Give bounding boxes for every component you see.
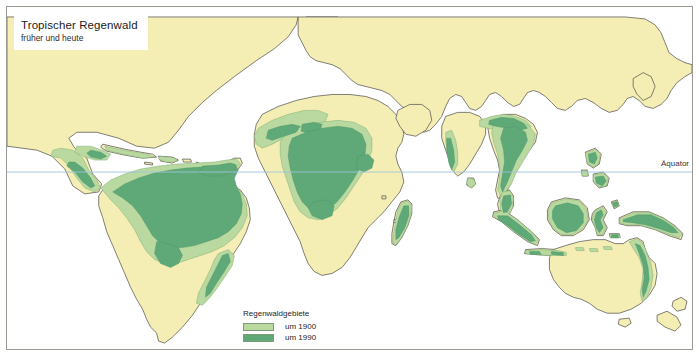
page-title: Tropischer Regenwald [21,19,138,32]
legend-swatch-1990 [243,334,274,342]
equator-label: Äquator [661,159,689,168]
legend-heading: Regenwaldgebiete [243,309,316,319]
map-frame: Tropischer Regenwald früher und heute Äq… [6,6,693,350]
rf1990-seram [611,235,618,238]
rf1990-java-west [529,252,541,255]
land-puerto-rico [182,159,191,162]
legend-label-1990: um 1990 [285,333,316,342]
rf1900-sunda-3 [603,247,612,250]
legend-swatch-1900 [243,323,274,331]
legend-item-1900: um 1900 [243,322,316,331]
map-figure: Tropischer Regenwald früher und heute Äq… [0,0,699,356]
legend-label-1900: um 1900 [285,322,316,331]
page-subtitle: früher und heute [21,33,138,44]
map-legend: Regenwaldgebiete um 1900 um 1990 [243,309,316,342]
land-island-dot-3 [382,196,386,199]
rf1900-sunda-2 [589,249,598,252]
world-map-graphic [7,7,692,349]
legend-item-1990: um 1990 [243,333,316,342]
rf1900-sunda-1 [575,248,584,251]
map-title-block: Tropischer Regenwald früher und heute [14,14,148,50]
